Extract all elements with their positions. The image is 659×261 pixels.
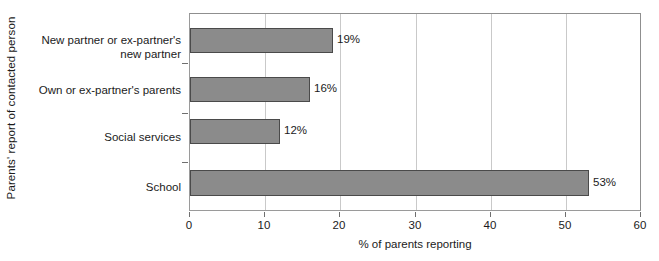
y-tick-1 [182,113,188,114]
x-tick-label-2: 20 [333,219,346,231]
x-tick-label-3: 30 [409,219,422,231]
y-axis-title-text: Parents' report of contacted person [5,16,17,199]
x-tick-3 [415,212,416,217]
bar-1 [190,77,310,102]
value-label-1: 16% [314,82,337,94]
value-label-0: 19% [337,33,360,45]
x-tick-label-1: 10 [258,219,271,231]
bar-chart: Parents' report of contacted person New … [0,0,659,261]
x-tick-5 [565,212,566,217]
x-tick-2 [339,212,340,217]
x-axis-title: % of parents reporting [189,238,641,250]
y-tick-2 [182,162,188,163]
value-label-3: 53% [593,176,616,188]
x-tick-4 [490,212,491,217]
category-label-3: School [146,181,181,195]
category-label-list: New partner or ex-partner's new partner … [22,13,185,211]
x-tick-label-0: 0 [186,219,192,231]
category-label-0: New partner or ex-partner's new partner [41,34,181,61]
x-tick-label-6: 60 [634,219,647,231]
x-tick-0 [189,212,190,217]
y-axis-title: Parents' report of contacted person [0,0,22,215]
category-label-2: Social services [104,131,181,145]
bar-2 [190,119,280,144]
y-tick-0 [182,63,188,64]
category-label-1: Own or ex-partner's parents [39,84,181,98]
value-label-2: 12% [284,124,307,136]
bar-0 [190,28,333,53]
x-tick-label-5: 50 [559,219,572,231]
bar-3 [190,170,589,196]
x-tick-6 [640,212,641,217]
x-tick-label-4: 40 [484,219,497,231]
plot-area [189,13,641,211]
x-tick-1 [264,212,265,217]
